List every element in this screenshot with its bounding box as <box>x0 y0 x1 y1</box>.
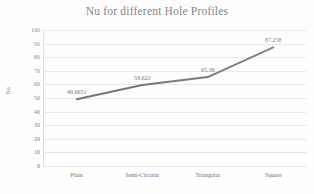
y-axis-tick-label: 60 <box>18 81 40 87</box>
y-axis-tick-label: 70 <box>18 68 40 74</box>
y-axis-tick-label: 90 <box>18 41 40 47</box>
y-axis-tick-label: 100 <box>18 27 40 33</box>
y-axis-tick-label: 0 <box>18 163 40 169</box>
x-axis-tick-labels: PlainSemi-CircularTriangularSquare <box>44 172 306 186</box>
y-axis-tick-label: 50 <box>18 95 40 101</box>
x-axis-tick-label: Semi-Circular <box>110 172 176 186</box>
y-axis-tick-label: 40 <box>18 109 40 115</box>
y-axis-tick-labels: 1009080706050403020100 <box>14 30 40 166</box>
y-axis-title: Nu <box>5 76 11 106</box>
data-label: 59.622 <box>134 75 151 81</box>
data-label: 65.38 <box>201 67 215 73</box>
series-line-nu <box>44 30 306 166</box>
gridline <box>44 166 306 167</box>
x-axis-tick-label: Plain <box>44 172 110 186</box>
y-axis-tick-label: 20 <box>18 136 40 142</box>
y-axis-tick-label: 80 <box>18 54 40 60</box>
y-axis-tick-label: 10 <box>18 149 40 155</box>
data-label: 87.258 <box>265 37 282 43</box>
y-axis-tick-label: 30 <box>18 122 40 128</box>
data-label: 49.0651 <box>67 89 87 95</box>
x-axis-tick-label: Square <box>241 172 307 186</box>
line-chart: Nu for different Hole Profiles Nu 100908… <box>0 0 314 194</box>
chart-title: Nu for different Hole Profiles <box>0 5 314 17</box>
plot-area: 49.065159.62265.3887.258 <box>44 30 306 166</box>
x-axis-tick-label: Triangular <box>175 172 241 186</box>
